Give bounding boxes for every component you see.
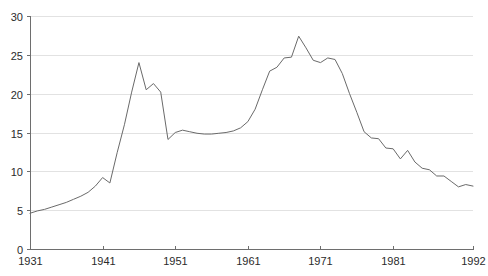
x-tick-label: 1981: [381, 255, 405, 267]
x-tick-label: 1992: [461, 255, 485, 267]
y-axis: [27, 16, 31, 250]
x-axis: [30, 246, 474, 250]
chart-container: 051015202530 193119411951196119711981199…: [0, 0, 488, 276]
y-tick-labels: 051015202530: [11, 11, 23, 256]
x-tick-label: 1961: [236, 255, 260, 267]
line-chart: 051015202530 193119411951196119711981199…: [0, 0, 488, 276]
y-tick-label: 30: [11, 11, 23, 23]
y-tick-label: 0: [17, 244, 23, 256]
x-tick-label: 1941: [91, 255, 115, 267]
x-tick-label: 1971: [308, 255, 332, 267]
y-tick-label: 25: [11, 50, 23, 62]
gridlines: [30, 17, 473, 211]
x-tick-label: 1951: [163, 255, 187, 267]
data-line-series-1: [30, 36, 473, 213]
y-tick-label: 10: [11, 166, 23, 178]
x-tick-labels: 1931194119511961197119811992: [18, 255, 485, 267]
y-tick-label: 20: [11, 89, 23, 101]
y-tick-label: 15: [11, 128, 23, 140]
y-tick-label: 5: [17, 205, 23, 217]
x-tick-label: 1931: [18, 255, 42, 267]
